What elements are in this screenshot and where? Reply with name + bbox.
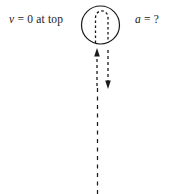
turnaround-path-shape — [96, 11, 109, 43]
down-arrow-head-shape — [105, 81, 111, 90]
physics-figure: v = 0 at top a = ? — [0, 0, 174, 194]
figure-canvas — [0, 0, 174, 194]
acceleration-label: a = ? — [135, 13, 159, 25]
velocity-label: v = 0 at top — [9, 13, 63, 25]
velocity-label-text: = 0 at top — [14, 13, 63, 25]
acceleration-label-text: = ? — [141, 13, 159, 25]
loop-circle-shape — [82, 6, 120, 44]
up-arrow-head-shape — [94, 48, 100, 57]
